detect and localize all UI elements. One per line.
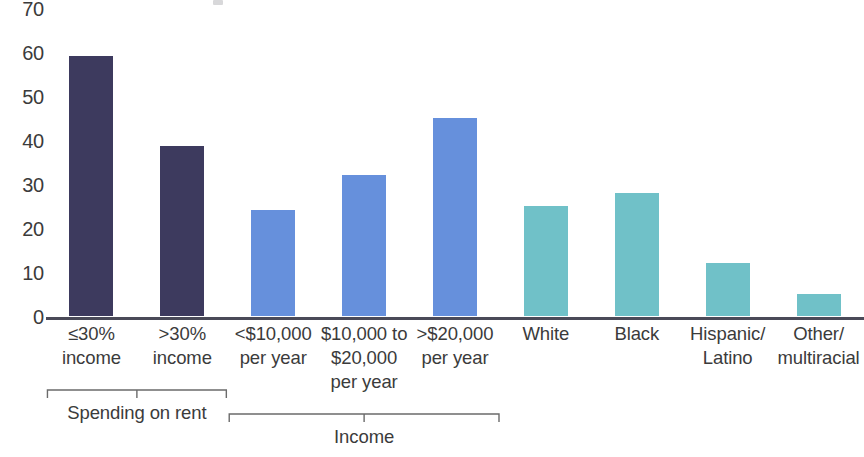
group-label-0: Spending on rent [0, 402, 277, 424]
y-tick-label-20: 20 [0, 219, 44, 239]
y-tick-label-10: 10 [0, 263, 44, 283]
bar-4 [433, 118, 477, 316]
bar-3 [342, 175, 386, 316]
plot-area [46, 8, 864, 318]
bar-5 [524, 206, 568, 316]
category-label-8: Other/ multiracial [764, 322, 864, 370]
y-tick-label-40: 40 [0, 131, 44, 151]
cropped-title-artifact [213, 0, 223, 5]
y-tick-label-30: 30 [0, 175, 44, 195]
group-label-1: Income [224, 426, 504, 448]
bar-2 [251, 210, 295, 316]
bar-7 [706, 263, 750, 316]
category-labels: ≤30% income>30% income<$10,000 per year$… [46, 322, 864, 392]
y-axis: 706050403020100 [0, 0, 44, 330]
bar-1 [160, 146, 204, 316]
y-tick-label-60: 60 [0, 43, 44, 63]
bar-0 [69, 56, 113, 316]
y-tick-label-50: 50 [0, 87, 44, 107]
bar-6 [615, 193, 659, 316]
y-tick-label-70: 70 [0, 0, 44, 19]
x-axis-baseline [46, 317, 864, 320]
bar-8 [797, 294, 841, 316]
bar-chart: 706050403020100 ≤30% income>30% income<$… [0, 0, 864, 457]
